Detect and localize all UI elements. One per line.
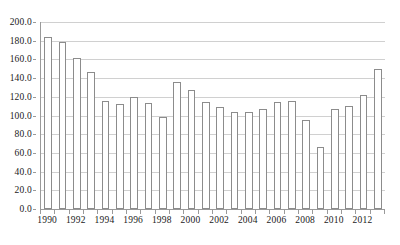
x-tick-label: 1990 bbox=[37, 215, 57, 225]
y-tick-mark bbox=[33, 22, 36, 23]
bar bbox=[288, 101, 295, 209]
y-tick-mark bbox=[33, 97, 36, 98]
x-tick-mark bbox=[341, 210, 342, 214]
x-tick-mark bbox=[69, 210, 70, 214]
x-tick-mark bbox=[83, 210, 84, 214]
y-tick-mark bbox=[33, 59, 36, 60]
bar bbox=[360, 95, 367, 209]
bar bbox=[202, 102, 209, 209]
bar bbox=[331, 109, 338, 209]
x-tick-label: 1994 bbox=[95, 215, 115, 225]
x-axis: 1990199219941996199820002002200420062008… bbox=[40, 215, 385, 235]
x-tick-mark bbox=[255, 210, 256, 214]
x-tick-label: 2002 bbox=[209, 215, 229, 225]
y-tick-mark bbox=[33, 209, 36, 210]
bar bbox=[130, 97, 137, 209]
bar bbox=[188, 90, 195, 209]
bar bbox=[245, 112, 252, 209]
y-tick-label: 40.0 bbox=[15, 167, 32, 177]
y-tick-mark bbox=[33, 190, 36, 191]
x-tick-mark bbox=[155, 210, 156, 214]
gridline bbox=[41, 59, 385, 60]
x-tick-label: 2008 bbox=[295, 215, 315, 225]
x-tick-mark bbox=[327, 210, 328, 214]
bar bbox=[317, 147, 324, 209]
x-tick-label: 2000 bbox=[181, 215, 201, 225]
bar bbox=[374, 69, 381, 209]
x-tick-mark bbox=[226, 210, 227, 214]
bar bbox=[345, 106, 352, 209]
y-tick-label: 80.0 bbox=[15, 129, 32, 139]
bar bbox=[59, 42, 66, 209]
bar bbox=[259, 109, 266, 209]
bar bbox=[44, 37, 51, 209]
y-tick-mark bbox=[33, 153, 36, 154]
bar bbox=[73, 58, 80, 209]
x-tick-mark bbox=[169, 210, 170, 214]
y-tick-label: 120.0 bbox=[10, 92, 32, 102]
x-tick-label: 2010 bbox=[324, 215, 344, 225]
x-tick-label: 1996 bbox=[123, 215, 143, 225]
y-tick-mark bbox=[33, 116, 36, 117]
y-tick-label: 180.0 bbox=[10, 36, 32, 46]
x-tick-mark bbox=[284, 210, 285, 214]
x-tick-label: 1992 bbox=[66, 215, 86, 225]
x-tick-mark bbox=[298, 210, 299, 214]
x-tick-mark bbox=[140, 210, 141, 214]
y-tick-mark bbox=[33, 172, 36, 173]
x-tick-mark bbox=[54, 210, 55, 214]
bar bbox=[173, 82, 180, 209]
y-tick-label: 0.0 bbox=[20, 204, 32, 214]
x-tick-label: 2012 bbox=[353, 215, 373, 225]
y-tick-label: 20.0 bbox=[15, 185, 32, 195]
x-tick-mark bbox=[126, 210, 127, 214]
y-axis: 0.020.040.060.080.0100.0120.0140.0160.01… bbox=[0, 22, 36, 210]
x-tick-mark bbox=[198, 210, 199, 214]
y-tick-label: 100.0 bbox=[10, 111, 32, 121]
bar bbox=[102, 101, 109, 209]
gridline bbox=[41, 41, 385, 42]
bar bbox=[274, 102, 281, 209]
x-tick-mark bbox=[212, 210, 213, 214]
bar-chart: 0.020.040.060.080.0100.0120.0140.0160.01… bbox=[0, 0, 400, 245]
plot-area bbox=[40, 22, 385, 210]
x-tick-mark bbox=[183, 210, 184, 214]
x-tick-mark bbox=[312, 210, 313, 214]
x-tick-label: 2006 bbox=[267, 215, 287, 225]
x-tick-label: 1998 bbox=[152, 215, 172, 225]
x-tick-mark bbox=[384, 210, 385, 214]
bar bbox=[87, 72, 94, 209]
y-tick-label: 60.0 bbox=[15, 148, 32, 158]
x-tick-mark bbox=[241, 210, 242, 214]
y-tick-mark bbox=[33, 78, 36, 79]
x-tick-mark bbox=[269, 210, 270, 214]
bar bbox=[231, 112, 238, 209]
bar bbox=[116, 104, 123, 209]
x-tick-mark bbox=[40, 210, 41, 214]
y-tick-label: 160.0 bbox=[10, 54, 32, 64]
bar bbox=[145, 103, 152, 209]
bar bbox=[159, 117, 166, 209]
y-tick-label: 140.0 bbox=[10, 73, 32, 83]
y-tick-label: 200.0 bbox=[10, 17, 32, 27]
x-tick-label: 2004 bbox=[238, 215, 258, 225]
x-tick-mark bbox=[370, 210, 371, 214]
gridline bbox=[41, 22, 385, 23]
x-tick-mark bbox=[112, 210, 113, 214]
x-tick-mark bbox=[97, 210, 98, 214]
bar bbox=[302, 120, 309, 209]
x-tick-mark bbox=[355, 210, 356, 214]
y-tick-mark bbox=[33, 134, 36, 135]
y-tick-mark bbox=[33, 41, 36, 42]
bar bbox=[216, 107, 223, 209]
